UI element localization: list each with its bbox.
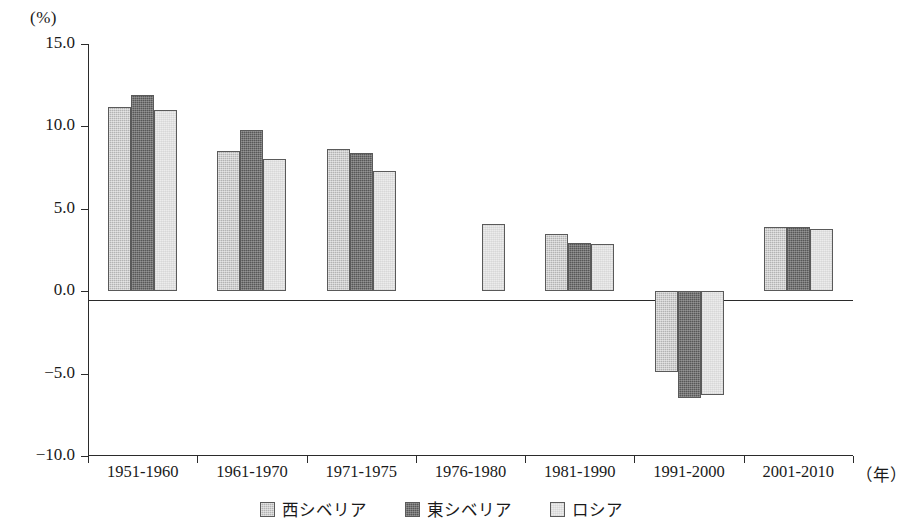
y-axis-tick-label: 15.0 <box>45 33 75 53</box>
x-axis-category-label: 2001-2010 <box>763 462 835 482</box>
x-axis-unit-label: （年） <box>856 462 900 486</box>
x-axis-labels: 1951-19601961-19701971-19751976-19801981… <box>88 462 853 488</box>
y-axis-tick: 0.0 <box>81 291 88 292</box>
bar-group <box>744 44 853 456</box>
bar-west <box>327 149 350 291</box>
bar-group <box>634 44 743 456</box>
bar-russia <box>701 291 724 395</box>
legend-item[interactable]: 西シベリア <box>260 497 367 521</box>
x-axis-tick <box>853 456 854 463</box>
bar-east <box>240 130 263 292</box>
legend-label: 西シベリア <box>282 497 367 521</box>
legend-item[interactable]: 東シベリア <box>405 497 512 521</box>
east-siberia-swatch <box>405 502 420 517</box>
bar-russia <box>482 224 505 292</box>
x-axis-category-label: 1981-1990 <box>544 462 616 482</box>
bar-east <box>678 291 701 398</box>
bar-group <box>197 44 306 456</box>
x-axis-category-label: 1991-2000 <box>653 462 725 482</box>
legend-label: ロシア <box>572 497 623 521</box>
bar-russia <box>154 110 177 291</box>
plot-area: 15.010.05.00.0−5.0−10.0 <box>88 44 853 456</box>
bar-east <box>787 227 810 291</box>
bar-russia <box>373 171 396 291</box>
bar-russia <box>810 229 833 292</box>
y-axis-tick: −5.0 <box>81 374 88 375</box>
bar-west <box>545 234 568 292</box>
bar-group <box>307 44 416 456</box>
bar-group <box>525 44 634 456</box>
bar-west <box>655 291 678 372</box>
legend-item[interactable]: ロシア <box>550 497 623 521</box>
y-axis-tick-label: 0.0 <box>54 280 75 300</box>
y-axis-tick: 5.0 <box>81 209 88 210</box>
legend-label: 東シベリア <box>427 497 512 521</box>
x-axis-category-label: 1951-1960 <box>107 462 179 482</box>
chart-legend: 西シベリア東シベリアロシア <box>0 497 882 521</box>
y-axis-tick-label: 10.0 <box>45 115 75 135</box>
russia-swatch <box>550 502 565 517</box>
bar-east <box>350 153 373 291</box>
y-axis-tick: −10.0 <box>81 456 88 457</box>
bar-west <box>217 151 240 291</box>
bar-west <box>108 107 131 292</box>
west-siberia-swatch <box>260 502 275 517</box>
bar-group <box>88 44 197 456</box>
y-axis-tick-label: −5.0 <box>44 363 75 383</box>
bar-russia <box>591 244 614 291</box>
y-axis-unit-label: (%) <box>30 8 57 28</box>
bar-west <box>764 227 787 291</box>
bar-group <box>416 44 525 456</box>
y-axis-tick: 10.0 <box>81 126 88 127</box>
x-axis-category-label: 1971-1975 <box>325 462 397 482</box>
x-axis-category-label: 1976-1980 <box>435 462 507 482</box>
y-axis-tick-label: 5.0 <box>54 198 75 218</box>
bar-russia <box>263 159 286 291</box>
bar-east <box>131 95 154 291</box>
bar-east <box>568 243 591 291</box>
x-axis-category-label: 1961-1970 <box>216 462 288 482</box>
y-axis-tick: 15.0 <box>81 44 88 45</box>
y-axis-tick-label: −10.0 <box>36 445 75 465</box>
